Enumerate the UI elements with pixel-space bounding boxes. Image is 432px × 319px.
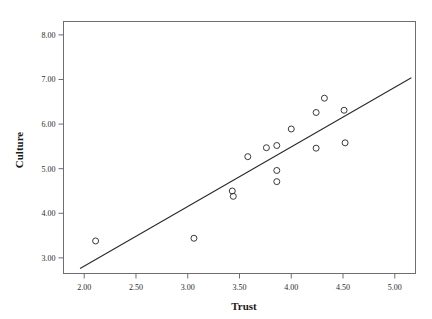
data-points [93,95,349,244]
chart-container: 2.002.503.003.504.004.505.00 3.004.005.0… [0,0,432,319]
data-point [93,238,99,244]
x-tick-label: 2.00 [77,283,91,292]
y-tick-label: 5.00 [42,165,56,174]
x-tick-label: 5.00 [388,283,402,292]
scatter-plot: 2.002.503.003.504.004.505.00 3.004.005.0… [0,0,432,319]
data-point [288,126,294,132]
data-point [342,140,348,146]
y-tick-label: 8.00 [42,31,56,40]
y-tick-label: 7.00 [42,75,56,84]
x-tick-label: 2.50 [129,283,143,292]
data-point [245,154,251,160]
data-point [191,235,197,241]
x-tick-label: 4.00 [284,283,298,292]
data-point [313,145,319,151]
data-point [274,142,280,148]
x-tick-labels: 2.002.503.003.504.004.505.00 [77,283,402,292]
regression-line [80,78,411,269]
y-tick-labels: 3.004.005.006.007.008.00 [42,31,56,263]
axis-ticks [59,35,395,279]
data-point [274,179,280,185]
plot-border [64,22,416,274]
y-tick-label: 3.00 [42,254,56,263]
fit-line [80,78,411,269]
x-tick-label: 4.50 [336,283,350,292]
x-tick-label: 3.00 [181,283,195,292]
data-point [313,109,319,115]
y-tick-label: 6.00 [42,120,56,129]
x-axis-title: Trust [231,300,257,312]
data-point [341,107,347,113]
data-point [263,145,269,151]
plot-frame [64,22,416,274]
y-axis-title: Culture [13,132,25,169]
data-point [321,95,327,101]
x-tick-label: 3.50 [233,283,247,292]
y-tick-label: 4.00 [42,209,56,218]
data-point [274,167,280,173]
